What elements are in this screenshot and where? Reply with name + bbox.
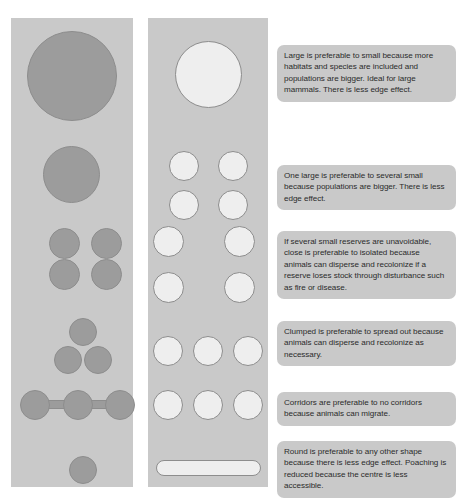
shape-spread-circle-1: [153, 336, 183, 366]
shape-clumped-circle-right: [84, 346, 112, 374]
shape-spread-circle-2: [193, 336, 223, 366]
shape-spread-circle-3: [233, 336, 263, 366]
shape-isolated-circle-4: [224, 272, 255, 303]
shape-one-large-circle: [43, 146, 100, 203]
callout-one-large-vs-several-small: One large is preferable to several small…: [277, 165, 456, 210]
shape-large-circle: [27, 31, 117, 121]
shape-close-circle-4: [91, 259, 122, 290]
shape-round-circle: [69, 456, 97, 484]
shape-isolated-circle-3: [153, 272, 184, 303]
shape-isolated-circle-1: [153, 226, 184, 257]
shape-small-circle: [175, 41, 242, 108]
shape-clumped-circle-left: [54, 346, 82, 374]
shape-corridor-circle-2: [63, 390, 93, 420]
shape-corridor-circle-1: [20, 390, 50, 420]
shape-close-circle-2: [91, 228, 122, 259]
shape-clumped-circle-top: [69, 318, 97, 346]
panel-less-preferable-designs: [148, 18, 268, 487]
shape-no-corridor-circle-3: [233, 390, 263, 420]
callout-corridors-vs-no-corridors: Corridors are preferable to no corridors…: [277, 392, 456, 426]
shape-no-corridor-circle-2: [193, 390, 223, 420]
callout-round-vs-elongated: Round is preferable to any other shape b…: [277, 441, 456, 498]
shape-several-small-circle-1: [169, 151, 199, 181]
shape-close-circle-3: [49, 259, 80, 290]
shape-close-circle-1: [49, 228, 80, 259]
panel-preferable-designs: [11, 18, 133, 487]
callout-large-vs-small: Large is preferable to small because mor…: [277, 45, 456, 102]
shape-several-small-circle-2: [218, 151, 248, 181]
shape-several-small-circle-3: [169, 190, 199, 220]
shape-elongated-pill: [156, 460, 261, 476]
shape-no-corridor-circle-1: [153, 390, 183, 420]
shape-several-small-circle-4: [218, 190, 248, 220]
callout-close-vs-isolated: If several small reserves are unavoidabl…: [277, 231, 456, 299]
shape-isolated-circle-2: [224, 226, 255, 257]
shape-corridor-circle-3: [105, 390, 135, 420]
callout-clumped-vs-spread: Clumped is preferable to spread out beca…: [277, 321, 456, 366]
